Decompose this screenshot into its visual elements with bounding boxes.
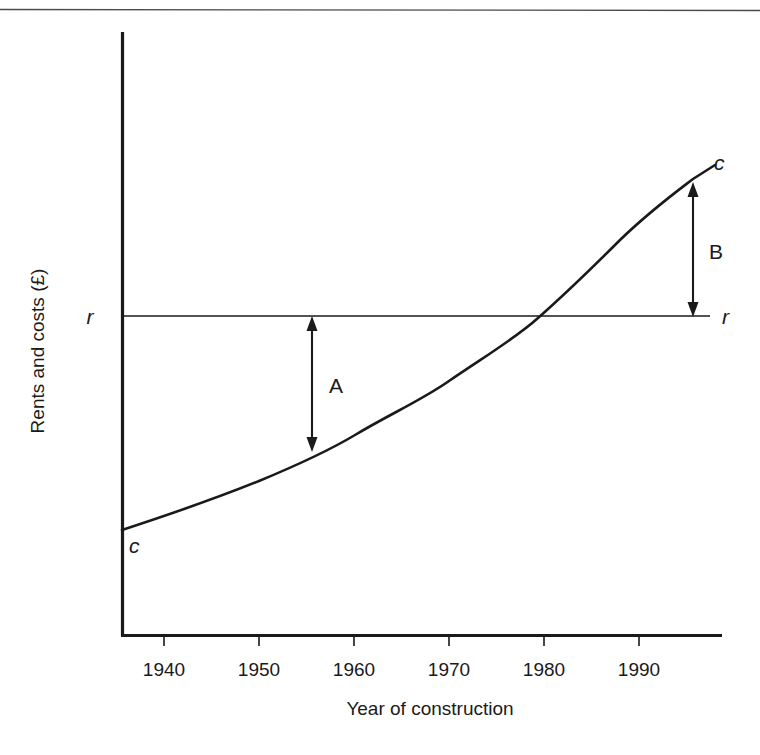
rents-and-costs-chart: 1940 1950 1960 1970 1980 1990 c c r r (0, 0, 760, 755)
top-divider-rule (0, 10, 760, 11)
x-axis-title: Year of construction (346, 698, 513, 719)
rent-label-r-right: r (722, 305, 730, 328)
gap-a-arrowhead-down (307, 437, 318, 452)
x-axis-ticks (164, 636, 639, 646)
x-tick-label-1960: 1960 (333, 659, 375, 680)
gap-b-arrowhead-down (688, 302, 699, 317)
y-axis-title: Rents and costs (£) (27, 269, 48, 434)
curve-label-c-start: c (129, 534, 140, 557)
x-tick-label-1990: 1990 (618, 659, 660, 680)
x-axis-tick-labels: 1940 1950 1960 1970 1980 1990 (143, 659, 660, 680)
gap-b-arrow (688, 182, 699, 317)
gap-b-arrowhead-up (688, 182, 699, 197)
x-tick-label-1980: 1980 (523, 659, 565, 680)
x-tick-label-1950: 1950 (238, 659, 280, 680)
cost-curve (122, 165, 715, 530)
gap-a-arrowhead-up (307, 316, 318, 331)
rent-label-r-left: r (87, 305, 95, 328)
gap-a-arrow (307, 316, 318, 452)
curve-label-c-end: c (714, 151, 725, 174)
gap-label-b: B (709, 240, 723, 263)
gap-label-a: A (329, 374, 343, 397)
figure-container: 1940 1950 1960 1970 1980 1990 c c r r (0, 0, 760, 755)
x-tick-label-1940: 1940 (143, 659, 185, 680)
x-tick-label-1970: 1970 (428, 659, 470, 680)
